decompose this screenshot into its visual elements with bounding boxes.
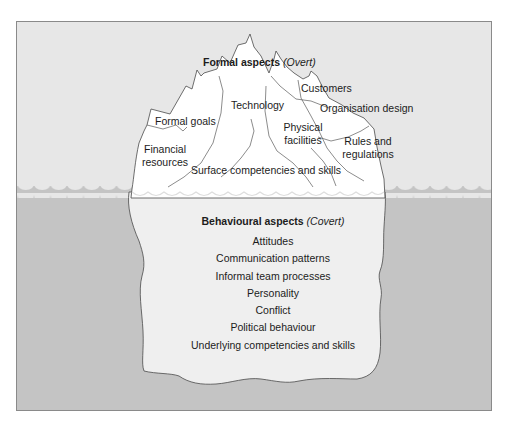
behavioural-aspects-title: Behavioural aspects (Covert) [144, 215, 402, 228]
list-item: Underlying competencies and skills [144, 337, 402, 354]
behavioural-aspects-title-italic: (Covert) [307, 215, 345, 227]
rules-line1: Rules and [338, 135, 398, 148]
formal-aspects-title: Formal aspects (Overt) [203, 56, 316, 69]
formal-aspects-title-bold: Formal aspects [203, 56, 280, 68]
behavioural-aspects-list: Attitudes Communication patterns Informa… [144, 233, 402, 354]
label-physical-facilities: Physical facilities [273, 121, 333, 147]
label-surface-competencies: Surface competencies and skills [191, 164, 341, 177]
formal-aspects-title-italic: (Overt) [283, 56, 316, 68]
list-item: Personality [144, 285, 402, 302]
label-financial-resources: Financial resources [135, 143, 195, 169]
label-technology: Technology [231, 99, 284, 112]
diagram-frame: Formal aspects (Overt) Customers Technol… [16, 21, 492, 411]
label-rules-and-regulations: Rules and regulations [338, 135, 398, 161]
label-organisation-design: Organisation design [320, 102, 413, 115]
behavioural-aspects-title-bold: Behavioural aspects [202, 215, 304, 227]
list-item: Attitudes [144, 233, 402, 250]
financial-line2: resources [135, 156, 195, 169]
list-item: Informal team processes [144, 268, 402, 285]
label-customers: Customers [301, 82, 352, 95]
label-formal-goals: Formal goals [155, 115, 216, 128]
financial-line1: Financial [135, 143, 195, 156]
rules-line2: regulations [338, 148, 398, 161]
list-item: Conflict [144, 302, 402, 319]
physical-facilities-line1: Physical [273, 121, 333, 134]
list-item: Political behaviour [144, 319, 402, 336]
physical-facilities-line2: facilities [273, 134, 333, 147]
list-item: Communication patterns [144, 250, 402, 267]
